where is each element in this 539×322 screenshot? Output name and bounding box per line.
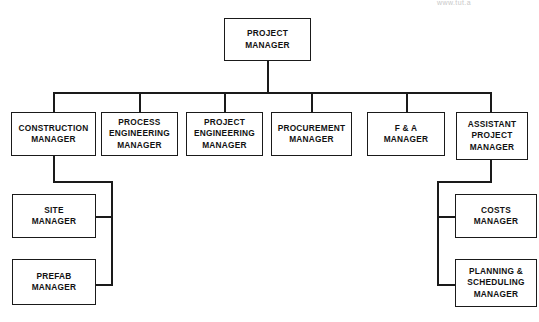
connector-assistant-stem [490, 160, 492, 182]
node-planning-scheduling-manager-label: PLANNING & SCHEDULING MANAGER [464, 266, 527, 300]
node-assistant-project-manager-label: ASSISTANT PROJECT MANAGER [465, 119, 520, 153]
node-project-engineering-manager-label: PROJECT ENGINEERING MANAGER [191, 117, 258, 151]
connector-construction-elbow [53, 181, 113, 183]
node-costs-manager[interactable]: COSTS MANAGER [455, 194, 537, 238]
connector-drop-project-engineering-manager [224, 92, 226, 113]
connector-drop-process-engineering-manager [139, 92, 141, 113]
node-construction-manager[interactable]: CONSTRUCTION MANAGER [11, 112, 96, 156]
node-assistant-project-manager[interactable]: ASSISTANT PROJECT MANAGER [456, 112, 528, 160]
connector-construction-stem [53, 156, 55, 182]
connector-stub-costs-manager [437, 216, 456, 218]
connector-assistant-elbow [437, 181, 492, 183]
connector-drop-fa-manager [406, 92, 408, 113]
connector-stub-site-manager [95, 216, 113, 218]
org-chart: www.tut.a PROJECT MANAGER CONSTRUCTION M… [0, 0, 539, 322]
node-process-engineering-manager[interactable]: PROCESS ENGINEERING MANAGER [101, 112, 178, 156]
node-procurement-manager[interactable]: PROCUREMENT MANAGER [271, 112, 352, 156]
node-fa-manager-label: F & A MANAGER [381, 123, 432, 146]
node-fa-manager[interactable]: F & A MANAGER [367, 112, 445, 156]
node-project-manager[interactable]: PROJECT MANAGER [224, 18, 311, 61]
connector-assistant-spine [437, 181, 439, 285]
connector-drop-procurement-manager [311, 92, 313, 113]
node-project-engineering-manager[interactable]: PROJECT ENGINEERING MANAGER [186, 112, 263, 156]
connector-stub-prefab-manager [95, 284, 113, 286]
connector-construction-spine [111, 181, 113, 285]
node-costs-manager-label: COSTS MANAGER [471, 205, 522, 228]
connector-level-two-bus [53, 92, 491, 94]
node-construction-manager-label: CONSTRUCTION MANAGER [16, 123, 92, 146]
node-prefab-manager-label: PREFAB MANAGER [29, 271, 80, 294]
node-process-engineering-manager-label: PROCESS ENGINEERING MANAGER [106, 117, 173, 151]
node-site-manager-label: SITE MANAGER [29, 205, 80, 228]
node-site-manager[interactable]: SITE MANAGER [12, 194, 96, 238]
connector-stub-planning-scheduling-manager [437, 284, 456, 286]
node-prefab-manager[interactable]: PREFAB MANAGER [12, 259, 96, 305]
connector-drop-construction-manager [53, 92, 55, 113]
node-procurement-manager-label: PROCUREMENT MANAGER [275, 123, 349, 146]
watermark-text: www.tut.a [437, 0, 471, 6]
node-planning-scheduling-manager[interactable]: PLANNING & SCHEDULING MANAGER [455, 259, 537, 307]
node-project-manager-label: PROJECT MANAGER [242, 28, 293, 51]
connector-drop-assistant-project-manager [490, 92, 492, 113]
connector-root-stem [267, 60, 269, 93]
